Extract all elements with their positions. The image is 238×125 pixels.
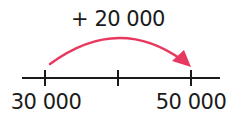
jump-label: + 20 000 xyxy=(71,7,165,31)
tick-label-end: 50 000 xyxy=(156,90,226,114)
jump-arrow-arc xyxy=(50,38,182,64)
tick-label-start: 30 000 xyxy=(11,90,81,114)
arrowhead-icon xyxy=(172,50,191,67)
